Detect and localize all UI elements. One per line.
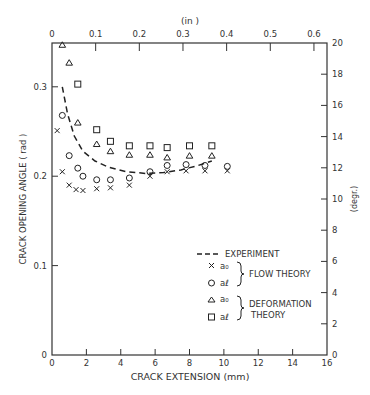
y2-tick-label: 6	[332, 256, 337, 266]
x-tick-label: 0	[49, 358, 54, 368]
y2-tick-label: 4	[332, 288, 337, 298]
triangle-marker	[164, 154, 171, 160]
legend-x-marker-icon	[209, 263, 214, 268]
circle-marker	[107, 177, 113, 183]
legend-al-flow: aℓ	[220, 278, 229, 288]
legend-al-def: aℓ	[220, 312, 229, 322]
circle-marker	[183, 162, 189, 168]
legend-circle-marker-icon	[209, 280, 215, 286]
x-marker	[108, 185, 113, 190]
circle-marker	[202, 162, 208, 168]
y-tick-label: 0	[42, 350, 47, 360]
legend-experiment-label: EXPERIMENT	[225, 249, 280, 259]
x-axis-label: CRACK EXTENSION (mm)	[131, 371, 250, 382]
triangle-marker	[74, 120, 81, 126]
square-marker	[75, 81, 81, 87]
x-marker	[127, 183, 132, 188]
legend: EXPERIMENT a₀ aℓ FLOW THEORY a₀ aℓ DEFOR…	[197, 249, 312, 322]
deformation-brace-icon	[237, 296, 244, 320]
triangle-marker	[66, 60, 73, 66]
legend-square-marker-icon	[209, 314, 215, 320]
triangle-marker	[147, 152, 154, 158]
x-marker	[60, 169, 65, 174]
y2-axis-label: (degr.)	[350, 186, 359, 212]
square-marker	[164, 145, 170, 151]
circle-marker	[80, 173, 86, 179]
x-marker	[202, 168, 207, 173]
triangle-marker	[93, 141, 100, 147]
square-marker	[209, 143, 215, 149]
y2-tick-label: 14	[332, 132, 343, 142]
legend-triangle-marker-icon	[208, 297, 215, 302]
legend-a0-def: a₀	[220, 294, 229, 304]
x-marker	[184, 168, 189, 173]
experiment-dashed-line	[62, 87, 212, 174]
y2-tick-label: 8	[332, 225, 337, 235]
crack-opening-angle-chart: 024681012141600.10.20.30.40.50.600.10.20…	[0, 0, 370, 395]
x2-tick-label: 0.1	[89, 29, 103, 39]
circle-marker	[59, 112, 65, 118]
y2-tick-label: 0	[332, 350, 337, 360]
circle-marker	[75, 165, 81, 171]
x-marker	[165, 169, 170, 174]
axis-tick-labels: 024681012141600.10.20.30.40.50.600.10.20…	[33, 29, 342, 368]
y2-tick-label: 16	[332, 100, 343, 110]
x2-tick-label: 0.2	[133, 29, 147, 39]
legend-theory-label: THEORY	[250, 310, 286, 320]
x2-axis-label: (in )	[181, 16, 199, 26]
x-tick-label: 12	[253, 358, 264, 368]
x2-tick-label: 0.3	[176, 29, 190, 39]
x-marker	[67, 183, 72, 188]
x-tick-label: 16	[322, 358, 333, 368]
square-marker	[126, 143, 132, 149]
y-tick-label: 0.3	[33, 82, 47, 92]
circle-marker	[126, 175, 132, 181]
square-marker	[147, 143, 153, 149]
data-points	[55, 42, 231, 193]
legend-flow-theory-label: FLOW THEORY	[249, 269, 311, 279]
x2-tick-label: 0.5	[264, 29, 278, 39]
x-tick-label: 4	[118, 358, 123, 368]
legend-a0-flow: a₀	[220, 261, 229, 271]
x-tick-label: 8	[187, 358, 192, 368]
circle-marker	[66, 153, 72, 159]
triangle-marker	[209, 153, 216, 159]
x2-tick-label: 0.4	[220, 29, 234, 39]
x-tick-label: 2	[84, 358, 89, 368]
y2-tick-label: 18	[332, 69, 343, 79]
experiment-curve	[62, 87, 212, 174]
square-marker	[94, 127, 100, 133]
y2-tick-label: 2	[332, 319, 337, 329]
circle-marker	[224, 163, 230, 169]
x-marker	[55, 128, 60, 133]
circle-marker	[94, 177, 100, 183]
square-marker	[187, 143, 193, 149]
triangle-marker	[186, 153, 193, 159]
x-marker	[94, 186, 99, 191]
y2-tick-label: 10	[332, 194, 343, 204]
x-tick-label: 10	[218, 358, 229, 368]
y-axis-label: CRACK OPENING ANGLE ( rad )	[18, 134, 28, 265]
y-tick-label: 0.1	[33, 261, 47, 271]
triangle-marker	[107, 148, 114, 154]
flow-brace-icon	[237, 262, 244, 286]
x-tick-label: 6	[152, 358, 157, 368]
x-marker	[74, 187, 79, 192]
triangle-marker	[126, 152, 133, 158]
circle-marker	[164, 162, 170, 168]
x2-tick-label: 0.6	[307, 29, 321, 39]
y2-tick-label: 12	[332, 163, 343, 173]
y2-tick-label: 20	[332, 38, 343, 48]
x2-tick-label: 0	[49, 29, 54, 39]
x-marker	[80, 188, 85, 193]
x-tick-label: 14	[287, 358, 298, 368]
legend-deformation-label: DEFORMATION	[249, 299, 312, 309]
y-tick-label: 0.2	[33, 171, 47, 181]
square-marker	[107, 138, 113, 144]
